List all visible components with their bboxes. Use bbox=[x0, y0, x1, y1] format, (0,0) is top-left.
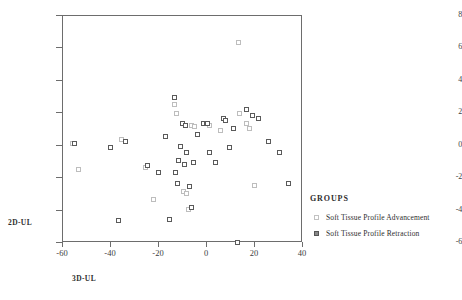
x-axis-title: 3D-UL bbox=[72, 274, 96, 283]
x-tick-label: 20 bbox=[234, 249, 274, 258]
x-tick-mark bbox=[110, 242, 111, 247]
x-tick-label: -20 bbox=[138, 249, 178, 258]
data-point bbox=[187, 184, 192, 189]
data-point bbox=[252, 183, 257, 188]
data-point bbox=[167, 217, 172, 222]
data-point bbox=[172, 95, 177, 100]
legend-label-retraction: Soft Tissue Profile Retraction bbox=[326, 229, 419, 238]
data-point bbox=[231, 126, 236, 131]
data-point bbox=[184, 191, 189, 196]
legend-marker-filled-square-icon bbox=[314, 231, 319, 236]
data-point bbox=[286, 181, 291, 186]
data-point bbox=[191, 160, 196, 165]
data-point bbox=[244, 107, 249, 112]
data-point bbox=[247, 126, 252, 131]
legend-marker-open-square-icon bbox=[314, 215, 319, 220]
data-point bbox=[207, 150, 212, 155]
y-tick-label: 8 bbox=[416, 11, 462, 19]
y-tick-label: -2 bbox=[416, 173, 462, 181]
y-tick-label: 6 bbox=[416, 43, 462, 51]
data-point bbox=[72, 141, 77, 146]
data-point bbox=[163, 134, 168, 139]
data-point bbox=[236, 40, 241, 45]
data-point bbox=[256, 116, 261, 121]
data-point bbox=[195, 132, 200, 137]
data-point bbox=[250, 113, 255, 118]
data-point bbox=[151, 197, 156, 202]
data-point bbox=[145, 163, 150, 168]
data-point bbox=[189, 205, 194, 210]
data-point bbox=[227, 145, 232, 150]
x-tick-mark bbox=[158, 242, 159, 247]
data-point bbox=[266, 139, 271, 144]
x-tick-label: -40 bbox=[90, 249, 130, 258]
y-tick-label: 2 bbox=[416, 108, 462, 116]
x-tick-mark bbox=[302, 242, 303, 247]
legend-item-retraction[interactable]: Soft Tissue Profile Retraction bbox=[310, 229, 460, 238]
data-point bbox=[235, 240, 240, 245]
legend: GROUPS Soft Tissue Profile Advancement S… bbox=[310, 194, 460, 245]
y-axis-title: 2D-UL bbox=[8, 218, 32, 227]
legend-item-advancement[interactable]: Soft Tissue Profile Advancement bbox=[310, 213, 460, 222]
data-point bbox=[213, 160, 218, 165]
legend-label-advancement: Soft Tissue Profile Advancement bbox=[326, 213, 430, 222]
data-point bbox=[76, 167, 81, 172]
data-point bbox=[184, 150, 189, 155]
data-point bbox=[178, 144, 183, 149]
data-points-layer bbox=[62, 15, 302, 242]
data-point bbox=[156, 170, 161, 175]
data-point bbox=[192, 124, 197, 129]
data-point bbox=[173, 170, 178, 175]
data-point bbox=[174, 111, 179, 116]
y-tick-label: 0 bbox=[416, 141, 462, 149]
data-point bbox=[218, 128, 223, 133]
data-point bbox=[277, 150, 282, 155]
x-tick-mark bbox=[62, 242, 63, 247]
data-point bbox=[182, 162, 187, 167]
data-point bbox=[183, 123, 188, 128]
y-tick-label: 4 bbox=[416, 76, 462, 84]
data-point bbox=[123, 139, 128, 144]
x-tick-mark bbox=[206, 242, 207, 247]
data-point bbox=[205, 121, 210, 126]
x-tick-label: 40 bbox=[282, 249, 322, 258]
data-point bbox=[116, 218, 121, 223]
data-point bbox=[172, 102, 177, 107]
data-point bbox=[237, 111, 242, 116]
x-tick-label: -60 bbox=[42, 249, 82, 258]
data-point bbox=[175, 181, 180, 186]
data-point bbox=[176, 158, 181, 163]
scatter-plot-figure: -6-4-202468 -60-40-2002040 2D-UL 3D-UL G… bbox=[0, 0, 462, 300]
legend-title: GROUPS bbox=[310, 194, 460, 203]
x-tick-mark bbox=[254, 242, 255, 247]
data-point bbox=[223, 118, 228, 123]
x-tick-label: 0 bbox=[186, 249, 226, 258]
data-point bbox=[108, 145, 113, 150]
